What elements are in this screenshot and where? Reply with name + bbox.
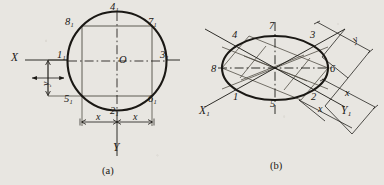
point-label-2-b: 2 (311, 92, 316, 103)
figure-canvas: 41 81 71 11 31 51 61 21 O X Y y x x (a) … (0, 0, 384, 185)
dimension-label-x-lower-b: x (318, 104, 322, 114)
point-label-4-1: 41 (110, 2, 119, 13)
point-label-7-b: 7 (269, 21, 274, 32)
caption-a: (a) (102, 166, 114, 177)
dimension-label-x-left-a: x (96, 112, 100, 122)
point-label-3-1: 31 (160, 50, 169, 61)
point-label-6-1: 61 (148, 94, 157, 105)
point-label-1-b: 1 (233, 92, 238, 103)
point-label-2-1: 21 (110, 106, 119, 117)
center-label-o: O (119, 55, 127, 66)
point-label-1-1: 11 (57, 50, 66, 61)
point-label-3-b: 3 (310, 30, 315, 41)
axis-label-x-a: X (11, 52, 18, 64)
dimension-label-y-a: y (41, 82, 51, 86)
point-label-7-1: 71 (148, 17, 157, 28)
caption-b: (b) (270, 161, 282, 172)
point-label-5-1: 51 (64, 94, 73, 105)
dimension-label-x-upper-b: x (345, 88, 349, 98)
axis-label-x1-b: X1 (199, 105, 210, 118)
point-label-5-b: 5 (270, 99, 275, 110)
dimension-label-x-right-a: x (133, 112, 137, 122)
point-label-6-b: 6 (330, 64, 335, 75)
axis-label-y1-b: Y1 (341, 105, 351, 118)
point-label-8-1: 81 (65, 17, 74, 28)
axis-label-y-a: Y (113, 142, 119, 154)
point-label-8-b: 8 (211, 64, 216, 75)
point-label-4-b: 4 (232, 30, 237, 41)
technical-drawing (0, 0, 384, 185)
